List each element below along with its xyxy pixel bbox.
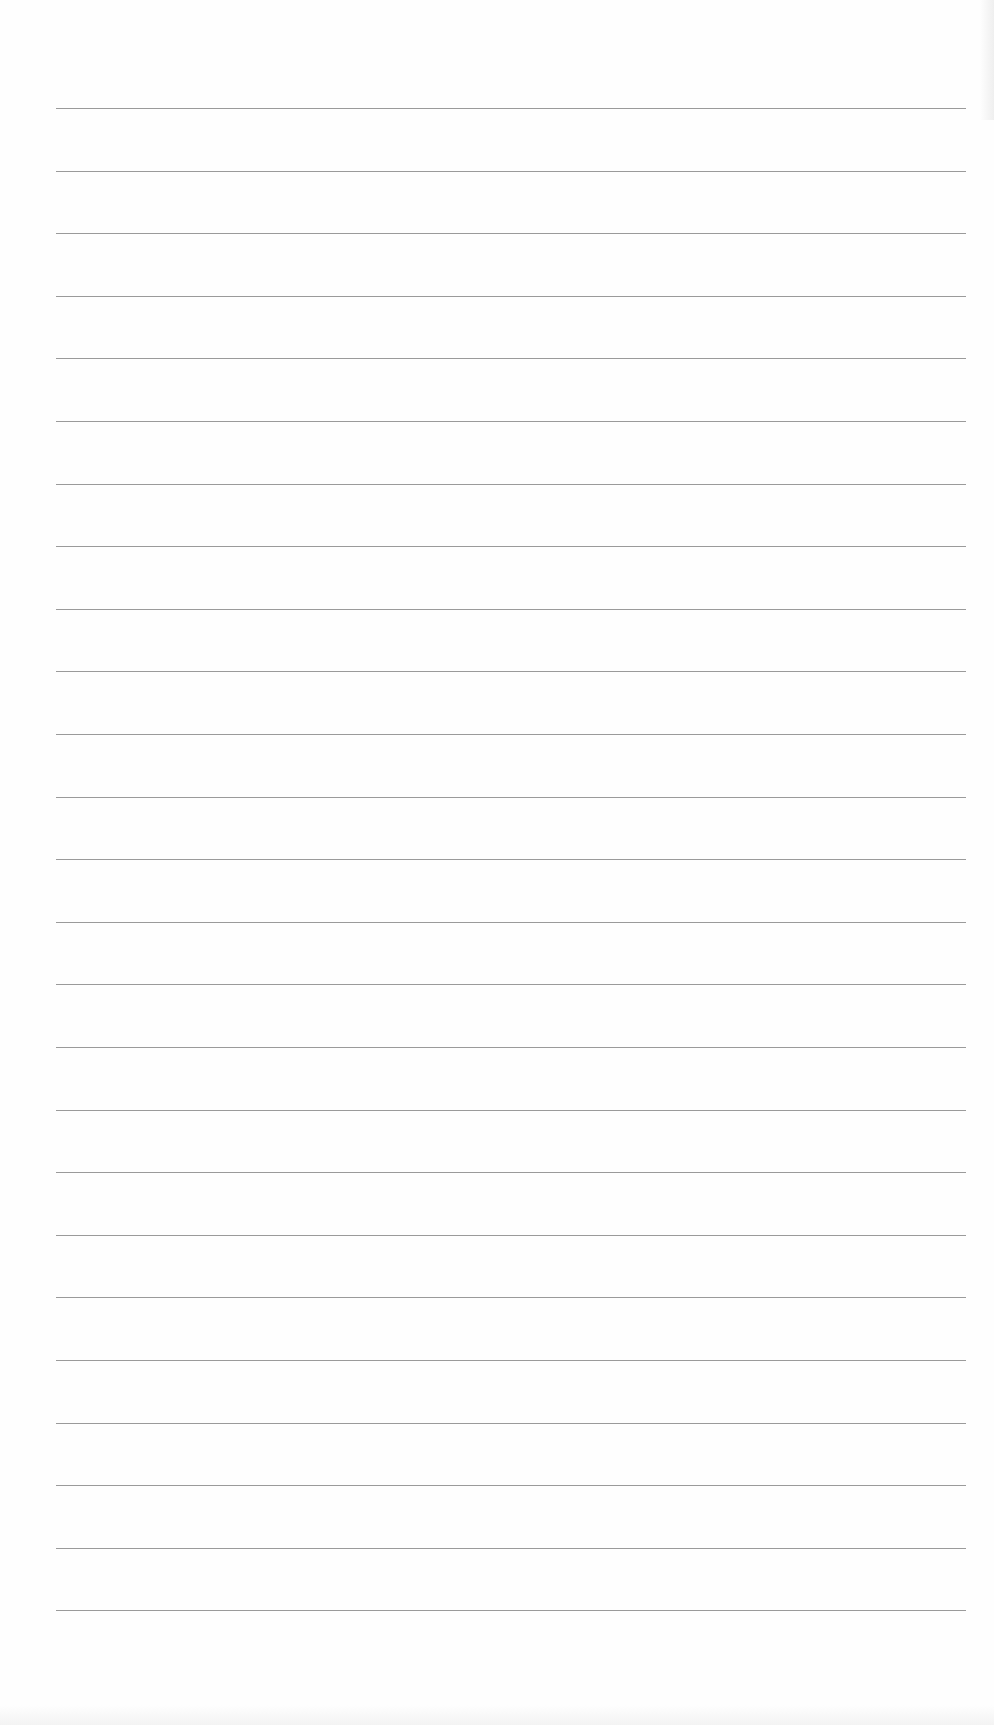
ruled-line	[56, 484, 966, 485]
ruled-line	[56, 1235, 966, 1236]
ruled-line	[56, 984, 966, 985]
ruled-line	[56, 734, 966, 735]
paper-bottom-shadow	[0, 1705, 994, 1725]
ruled-line	[56, 1548, 966, 1549]
ruled-line	[56, 421, 966, 422]
ruled-line	[56, 108, 966, 109]
ruled-line	[56, 609, 966, 610]
ruled-line	[56, 1047, 966, 1048]
ruled-line	[56, 1610, 966, 1611]
ruled-line	[56, 546, 966, 547]
ruled-line	[56, 1172, 966, 1173]
ruled-line	[56, 296, 966, 297]
ruled-line	[56, 358, 966, 359]
ruled-line	[56, 1423, 966, 1424]
paper-edge-shadow	[980, 0, 994, 120]
ruled-line	[56, 171, 966, 172]
ruled-line	[56, 859, 966, 860]
ruled-line	[56, 233, 966, 234]
lined-paper-sheet	[0, 0, 994, 1725]
ruled-line	[56, 1110, 966, 1111]
ruled-line	[56, 1485, 966, 1486]
ruled-line	[56, 797, 966, 798]
ruled-line	[56, 1360, 966, 1361]
ruled-line	[56, 922, 966, 923]
ruled-line	[56, 671, 966, 672]
ruled-line	[56, 1297, 966, 1298]
